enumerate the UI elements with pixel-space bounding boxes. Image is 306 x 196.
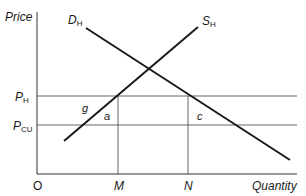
y-axis-label: Price [5,10,33,24]
area-label-g: g [82,102,89,114]
quantity-label-m: M [114,179,124,193]
area-label-c: c [197,110,203,122]
price-label-pcu: PCU [13,119,33,134]
price-label-ph: PH [15,90,29,105]
origin-label: O [33,179,42,193]
demand-label: DH [68,13,83,28]
supply-label: SH [202,14,216,29]
x-axis-label: Quantity [252,179,298,193]
area-label-a: a [104,110,110,122]
supply-demand-diagram: Price Quantity O M N PH PCU DH SH g a c [0,0,306,196]
quantity-label-n: N [184,179,193,193]
supply-curve [64,27,198,141]
